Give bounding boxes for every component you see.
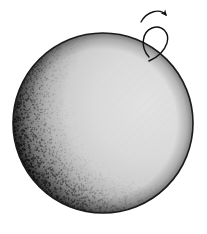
sphere-illustration bbox=[0, 0, 207, 234]
sphere-group bbox=[13, 28, 193, 218]
figure-canvas: Illuminated rotating sphere bbox=[0, 0, 207, 234]
sphere-limb-shading bbox=[13, 33, 193, 213]
rotation-direction-arrow bbox=[141, 11, 166, 22]
